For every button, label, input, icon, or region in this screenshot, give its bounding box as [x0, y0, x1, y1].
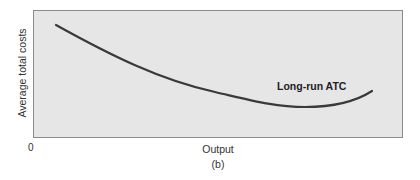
- origin-label: 0: [28, 142, 34, 153]
- series-label: Long-run ATC: [277, 80, 346, 92]
- chart-figure: Average total costs 0 Output (b) Long-ru…: [0, 0, 420, 180]
- figure-caption: (b): [212, 158, 225, 170]
- x-axis-label: Output: [202, 143, 234, 155]
- y-axis-label: Average total costs: [16, 28, 28, 117]
